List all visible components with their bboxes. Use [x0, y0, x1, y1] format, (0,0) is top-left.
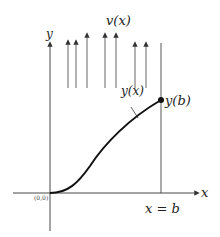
flow-label: v(x): [106, 13, 131, 28]
endpoint-label: y(b): [164, 93, 191, 108]
y-axis-label: y: [45, 27, 53, 41]
boundary-label: x = b: [145, 201, 180, 216]
origin-label: (0,0): [34, 194, 48, 201]
flow-arrows: [68, 35, 146, 88]
curve-label-pointer: [131, 107, 138, 118]
endpoint-dot: [158, 97, 164, 103]
curve-y-of-x: [50, 100, 161, 193]
x-axis-label: x: [201, 185, 209, 200]
diagram-canvas: v(x) y x y(x) y(b) x = b (0,0): [0, 0, 220, 237]
curve-label: y(x): [120, 84, 144, 98]
